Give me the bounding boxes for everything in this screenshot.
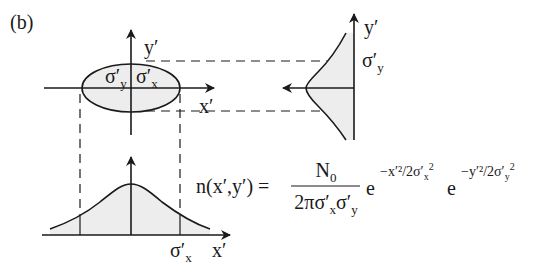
equation-numerator: N0: [291, 160, 361, 184]
side-profile-sigma-label: σ′y: [362, 50, 384, 74]
equation-denominator: 2πσ′xσ′y: [289, 192, 363, 216]
diagram-canvas: [0, 0, 543, 271]
equation-exp1: e: [366, 178, 375, 198]
panel-label: (b): [10, 12, 33, 32]
ellipse-sigma-y-label: σ′y: [105, 66, 127, 90]
side-profile-fill: [306, 33, 354, 140]
bottom-profile-fill: [50, 184, 210, 235]
ellipse-sigma-x-label: σ′x: [136, 66, 158, 90]
equation-exp2: e: [447, 178, 456, 198]
equation-exp1-power: −x′²/2σ′x2: [380, 162, 434, 182]
equation-lhs: n(x′,y′) =: [196, 176, 269, 196]
ellipse-y-axis-label: y′: [144, 37, 158, 57]
equation-exp2-power: −y′²/2σ′y2: [461, 162, 515, 182]
side-profile-y-label: y′: [364, 17, 378, 37]
ellipse-x-axis-label: x′: [199, 96, 213, 116]
bottom-profile-sigma-label: σ′x: [170, 240, 192, 264]
bottom-profile-x-label: x′: [212, 240, 226, 260]
